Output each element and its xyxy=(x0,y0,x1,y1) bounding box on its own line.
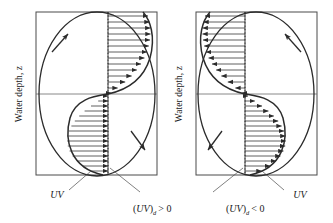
panel-left: Water depth, z xyxy=(14,12,171,216)
stress-arrows-lower-right xyxy=(245,96,286,171)
y-axis-label-right: Water depth, z xyxy=(174,66,184,122)
y-axis-label-left: Water depth, z xyxy=(14,66,24,122)
x-axis-label-right: UV xyxy=(293,189,308,200)
caption-left-rel: > 0 xyxy=(158,203,171,214)
stress-arrows-upper-right xyxy=(203,16,246,93)
leader-line-caption-right xyxy=(213,168,243,192)
stress-arrows-upper-left xyxy=(108,16,151,93)
caption-right-sub: d xyxy=(246,209,250,216)
leader-line-uv-left xyxy=(69,171,91,190)
leader-line-caption-left xyxy=(110,168,140,192)
x-axis-label-left: UV xyxy=(50,189,65,200)
circulation-arrow-lower-right xyxy=(208,131,222,150)
caption-left: (UV)d> 0 xyxy=(133,203,171,216)
circulation-arrow-upper-right xyxy=(285,34,301,52)
circulation-arrow-lower-left xyxy=(131,131,145,150)
stress-arrows-lower-left xyxy=(67,96,108,171)
panel-right: Water depth, z xyxy=(174,12,317,216)
caption-left-sub: d xyxy=(153,209,157,216)
caption-right-rel: < 0 xyxy=(251,203,264,214)
leader-line-uv-right xyxy=(262,171,284,190)
figure-canvas: Water depth, z xyxy=(0,0,333,223)
caption-right: (UV)d< 0 xyxy=(226,203,264,216)
circulation-arrow-upper-left xyxy=(52,34,68,52)
diagram-svg: Water depth, z xyxy=(0,0,333,223)
